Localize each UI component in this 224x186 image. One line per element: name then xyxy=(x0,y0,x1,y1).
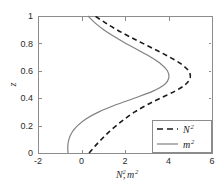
y-tick-label: 1 xyxy=(28,11,33,21)
y-axis-title-z: z xyxy=(7,82,18,87)
y-tick-label: 0.8 xyxy=(20,39,33,49)
x-axis-title-comma: , xyxy=(123,169,126,180)
y-tick-label: 0.4 xyxy=(20,93,33,103)
x-axis-title-m: m xyxy=(127,169,134,180)
x-tick-label: 6 xyxy=(209,156,214,166)
legend-box[interactable] xyxy=(153,121,212,153)
y-tick-label: 0.2 xyxy=(20,121,33,131)
legend-label-m: m xyxy=(183,139,190,150)
y-tick-label: 0 xyxy=(28,148,33,158)
chart-legend[interactable]: N2m2 xyxy=(153,121,212,153)
x-tick-label: 0 xyxy=(79,156,84,166)
x-axis-title: N2,m2 xyxy=(115,168,139,180)
x-axis-tick-labels: -20246 xyxy=(34,156,215,166)
x-tick-label: 2 xyxy=(122,156,127,166)
y-tick-label: 0.6 xyxy=(20,66,33,76)
chart-figure: -20246 00.20.40.60.81 N2,m2 z N2m2 xyxy=(0,0,224,186)
y-axis-title: z xyxy=(7,82,18,87)
y-axis-tick-labels: 00.20.40.60.81 xyxy=(20,11,33,158)
x-tick-label: 4 xyxy=(166,156,171,166)
x-tick-label: -2 xyxy=(34,156,42,166)
x-axis-title-m-sup: 2 xyxy=(135,168,139,175)
chart-svg: -20246 00.20.40.60.81 N2,m2 z N2m2 xyxy=(0,0,224,186)
